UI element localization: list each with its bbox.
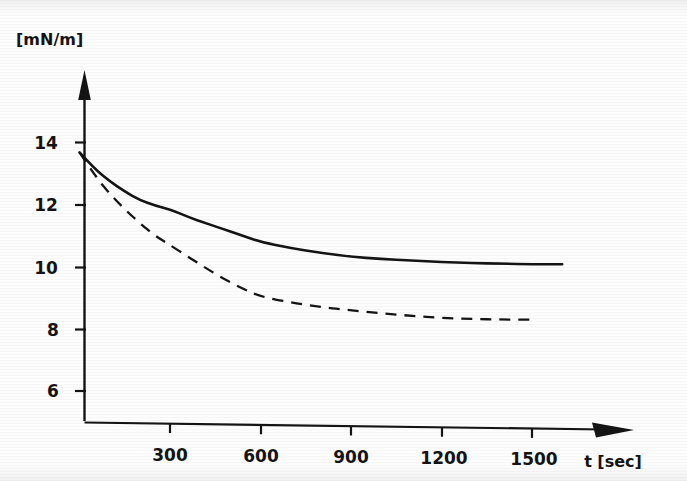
figure-page: [mN/m] 14 12 10 8 6 xyxy=(0,0,687,481)
y-axis-arrow-icon xyxy=(78,70,91,100)
data-series-dashed xyxy=(80,152,533,319)
x-tick-label-600: 600 xyxy=(243,446,279,466)
data-series-solid xyxy=(80,152,563,264)
y-tick-label-12: 12 xyxy=(34,195,58,215)
x-tick-label-1200: 1200 xyxy=(420,448,467,468)
y-axis xyxy=(78,70,91,421)
x-tick-label-900: 900 xyxy=(333,447,369,467)
x-axis-title: t [sec] xyxy=(584,452,642,471)
x-axis-arrow-icon xyxy=(592,423,634,438)
y-tick-label-8: 8 xyxy=(47,320,59,340)
x-axis xyxy=(85,423,635,438)
line-chart: [mN/m] 14 12 10 8 6 xyxy=(0,0,687,481)
x-tick-label-1500: 1500 xyxy=(510,449,557,469)
x-tick-label-300: 300 xyxy=(152,445,188,465)
y-tick-label-10: 10 xyxy=(34,258,58,278)
y-tick-label-6: 6 xyxy=(47,381,59,401)
y-axis-unit-label: [mN/m] xyxy=(16,30,83,49)
y-tick-label-14: 14 xyxy=(34,133,58,153)
